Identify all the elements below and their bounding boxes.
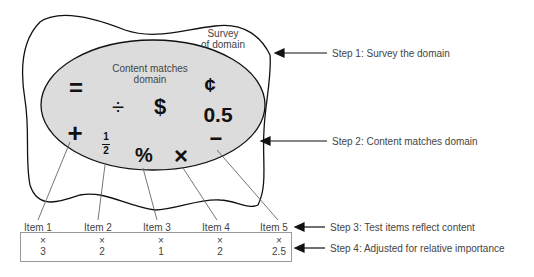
decimal-symbol: 0.5 xyxy=(198,104,238,125)
step-2-label: Step 2: Content matches domain xyxy=(332,136,478,147)
plus-symbol: + xyxy=(64,120,86,146)
divide-symbol: ÷ xyxy=(108,96,128,118)
content-label-line1: Content matches xyxy=(100,63,200,74)
survey-label-line2: of domain xyxy=(198,39,248,50)
item-3-weight: ×1 xyxy=(146,235,176,257)
content-label-line2: domain xyxy=(100,74,200,85)
weights-table: ×3 ×2 ×1 ×2 ×2.5 xyxy=(20,232,292,262)
equals-symbol: = xyxy=(66,76,86,100)
step-4-label: Step 4: Adjusted for relative importance xyxy=(330,243,505,254)
step-3-label: Step 3: Test items reflect content xyxy=(330,222,475,233)
item-5-weight: ×2.5 xyxy=(264,235,294,257)
item-1-weight: ×3 xyxy=(28,235,58,257)
times-symbol: × xyxy=(170,144,192,168)
cent-symbol: ¢ xyxy=(200,75,220,95)
step-1-label: Step 1: Survey the domain xyxy=(332,48,450,59)
fraction-denominator: 2 xyxy=(101,146,111,156)
item-2-weight: ×2 xyxy=(87,235,117,257)
dollar-symbol: $ xyxy=(150,96,170,118)
percent-symbol: % xyxy=(133,145,155,165)
item-4-weight: ×2 xyxy=(205,235,235,257)
fraction-numerator: 1 xyxy=(101,132,111,142)
minus-symbol: − xyxy=(205,128,227,150)
survey-label-line1: Survey xyxy=(198,28,248,39)
